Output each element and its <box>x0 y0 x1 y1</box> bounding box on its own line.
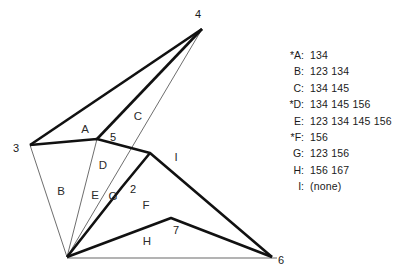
region-label-f: F <box>142 199 149 211</box>
vertex-label-7: 7 <box>173 224 179 236</box>
vertex-label-2: 2 <box>130 183 136 195</box>
legend-value: 123 156 <box>310 147 408 159</box>
vertex-label-6: 6 <box>278 254 284 266</box>
edge-3-to-4 <box>30 29 202 145</box>
legend-row: H: 156 167 <box>278 164 408 180</box>
legend-row: I: (none) <box>278 180 408 196</box>
legend-key: *D: <box>278 98 310 110</box>
legend-key: *A: <box>278 49 310 61</box>
legend-value: 134 145 <box>310 82 408 94</box>
legend-row: C: 134 145 <box>278 82 408 98</box>
legend-key: *F: <box>278 131 310 143</box>
legend-value: 156 <box>310 131 408 143</box>
region-label-b: B <box>57 185 65 197</box>
legend-row: G: 123 156 <box>278 147 408 163</box>
region-label-h: H <box>143 235 151 247</box>
legend-row: *A: 134 <box>278 49 408 65</box>
region-label-e: E <box>91 189 99 201</box>
legend-value: (none) <box>310 180 408 192</box>
legend-key: E: <box>278 115 310 127</box>
region-label-d: D <box>99 159 107 171</box>
region-label-c: C <box>134 110 142 122</box>
legend-value: 123 134 145 156 <box>310 115 408 127</box>
legend-value: 134 <box>310 49 408 61</box>
legend-value: 123 134 <box>310 65 408 77</box>
thin-line-hub-to-3 <box>30 145 67 257</box>
legend-key: H: <box>278 164 310 176</box>
region-label-a: A <box>81 123 89 135</box>
legend-key: B: <box>278 65 310 77</box>
vertex-label-3: 3 <box>13 142 19 154</box>
edge-4-to-5 <box>97 29 202 139</box>
legend-row: E: 123 134 145 156 <box>278 115 408 131</box>
legend-value: 134 145 156 <box>310 98 408 110</box>
legend-key: G: <box>278 147 310 159</box>
vertex-label-5: 5 <box>110 131 116 143</box>
legend-value: 156 167 <box>310 164 408 176</box>
vertex-label-4: 4 <box>195 8 201 20</box>
legend-key: C: <box>278 82 310 94</box>
region-label-i: I <box>174 151 177 163</box>
legend-row: *D: 134 145 156 <box>278 98 408 114</box>
legend-row: *F: 156 <box>278 131 408 147</box>
legend-row: B: 123 134 <box>278 65 408 81</box>
region-label-g: G <box>109 190 118 202</box>
legend-key: I: <box>278 180 310 192</box>
region-legend: *A: 134 B: 123 134 C: 134 145 *D: 134 14… <box>278 49 408 197</box>
edge-chain-hub-7-6 <box>67 218 272 257</box>
